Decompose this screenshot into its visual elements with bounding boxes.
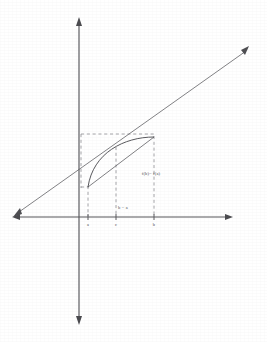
- tick-label-b: b: [153, 222, 156, 227]
- tick-label-c: c: [115, 222, 117, 227]
- secant-line: [19, 51, 246, 212]
- vertical-axis-arrowhead-down: [76, 316, 82, 325]
- vertical-axis-arrowhead-up: [76, 17, 82, 26]
- mean-value-theorem-figure: a c b f(b)− f(a) b − a: [0, 0, 267, 342]
- horizontal-axis-group: [12, 214, 233, 220]
- tick-label-a: a: [87, 222, 89, 227]
- diagram-canvas: a c b f(b)− f(a) b − a: [0, 0, 267, 342]
- horizontal-axis-arrowhead-right: [225, 214, 233, 220]
- rise-label: f(b)− f(a): [142, 171, 161, 176]
- run-label: b − a: [118, 205, 128, 210]
- tick-label-group: a c b: [87, 222, 156, 227]
- secant-line-group: [13, 46, 249, 217]
